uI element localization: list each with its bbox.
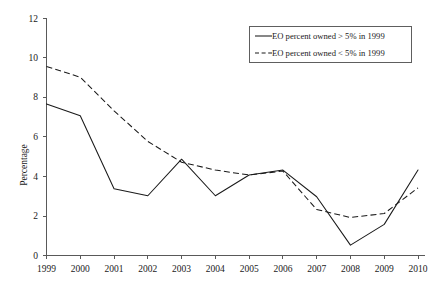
y-tick-label: 8	[33, 92, 38, 102]
y-tick-label: 10	[29, 53, 39, 63]
x-tick-label: 2001	[105, 264, 124, 274]
series-line-eo-less-5	[47, 66, 419, 217]
x-tick-label: 2000	[71, 264, 90, 274]
x-axis-tick-labels: 1999200020012002200320042005200620072008…	[37, 264, 428, 274]
legend-item-label: EO percent owned > 5% in 1999	[272, 31, 385, 41]
y-axis-tick-labels: 0 2 4 6 8 10 12	[29, 14, 39, 261]
y-tick-label: 6	[33, 132, 38, 142]
y-tick-label: 2	[33, 211, 38, 221]
x-tick-label: 2005	[240, 264, 259, 274]
series-line-eo-greater-5	[47, 104, 419, 245]
y-tick-label: 12	[29, 14, 39, 24]
legend: EO percent owned > 5% in 1999 EO percent…	[250, 27, 412, 63]
line-chart: Percentage 0 2 4 6 8 10 12 1999200020012…	[0, 0, 433, 293]
chart-container: Percentage 0 2 4 6 8 10 12 1999200020012…	[0, 0, 433, 293]
x-tick-label: 2006	[273, 264, 292, 274]
x-tick-label: 1999	[37, 264, 56, 274]
x-tick-label: 2010	[409, 264, 428, 274]
x-tick-label: 2003	[172, 264, 191, 274]
x-tick-label: 2008	[341, 264, 360, 274]
y-tick-label: 4	[33, 172, 38, 182]
legend-item-eo-greater-5[interactable]: EO percent owned > 5% in 1999	[255, 31, 385, 41]
y-tick-label: 0	[33, 251, 38, 261]
legend-item-eo-less-5[interactable]: EO percent owned < 5% in 1999	[255, 48, 385, 58]
legend-item-label: EO percent owned < 5% in 1999	[272, 48, 385, 58]
y-axis-ticks	[43, 18, 47, 256]
x-tick-label: 2007	[307, 264, 326, 274]
y-axis-title: Percentage	[19, 144, 29, 186]
x-tick-label: 2009	[375, 264, 394, 274]
x-tick-label: 2004	[206, 264, 225, 274]
x-tick-label: 2002	[138, 264, 157, 274]
